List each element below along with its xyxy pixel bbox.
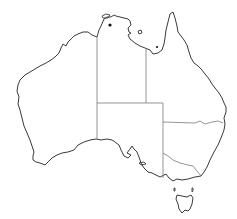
nsw-vic-border bbox=[163, 153, 201, 176]
king-island bbox=[174, 188, 175, 191]
tasmania-coastline bbox=[176, 195, 193, 213]
groote-eylandt-island bbox=[138, 30, 142, 34]
kangaroo-island bbox=[139, 162, 146, 165]
australia-map bbox=[0, 0, 237, 219]
location-marker bbox=[108, 23, 111, 26]
mainland-coastline bbox=[17, 12, 226, 181]
flinders-island bbox=[192, 188, 193, 192]
qld-nsw-border bbox=[163, 121, 223, 124]
location-marker bbox=[156, 46, 158, 48]
